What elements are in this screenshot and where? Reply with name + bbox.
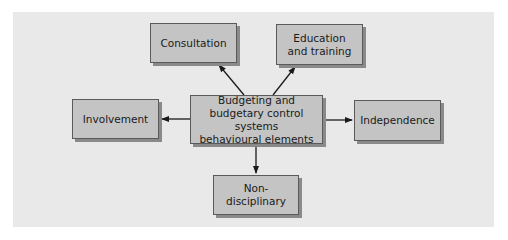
node-label: Non-disciplinary (214, 182, 298, 208)
node-label-line: Education (293, 32, 345, 45)
node-independence: Independence (354, 100, 441, 141)
node-label-line: and training (288, 45, 352, 58)
node-non-disciplinary: Non-disciplinary (213, 175, 299, 215)
node-label: Independence (360, 114, 435, 127)
node-involvement: Involvement (72, 99, 159, 139)
center-label-line: budgetary control systems (191, 107, 322, 133)
node-label: Involvement (83, 113, 148, 126)
node-label: Consultation (160, 37, 226, 50)
node-center-budgeting: Budgeting and budgetary control systems … (190, 95, 323, 144)
node-education-and-training: Education and training (276, 24, 363, 65)
node-consultation: Consultation (150, 23, 237, 63)
arrow-to-education (273, 67, 295, 95)
center-label-line: behavioural elements (199, 133, 313, 146)
center-label-line: Budgeting and (218, 94, 295, 107)
arrow-to-consultation (219, 65, 244, 95)
